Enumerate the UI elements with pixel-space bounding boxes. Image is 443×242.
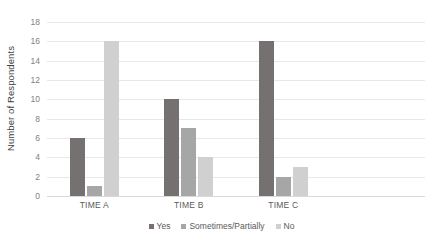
x-axis-category-label: TIME C	[268, 200, 298, 210]
bar	[198, 157, 213, 196]
legend-label: Sometimes/Partially	[189, 222, 264, 231]
bar	[259, 41, 274, 196]
y-axis-tick-label: 6	[35, 134, 40, 143]
legend-swatch-icon	[276, 224, 281, 229]
legend-item[interactable]: No	[276, 222, 295, 231]
bar	[293, 167, 308, 196]
bar	[70, 138, 85, 196]
y-axis-tick-label: 16	[31, 37, 40, 46]
bar-chart: Number of Respondents 024681012141618 TI…	[0, 0, 443, 242]
axis-baseline	[47, 196, 425, 197]
plot-area	[47, 22, 425, 196]
y-axis-tick-label: 0	[35, 192, 40, 201]
bar	[181, 128, 196, 196]
legend-label: Yes	[157, 222, 171, 231]
y-axis-title-text: Number of Respondents	[6, 45, 17, 150]
y-axis-tick-label: 14	[31, 56, 40, 65]
bar	[164, 99, 179, 196]
bar	[276, 177, 291, 196]
legend-item[interactable]: Sometimes/Partially	[181, 222, 264, 231]
y-axis-tick-label: 2	[35, 172, 40, 181]
bar	[104, 41, 119, 196]
y-axis-title: Number of Respondents	[4, 0, 18, 196]
x-axis-category-label: TIME B	[174, 200, 204, 210]
y-axis-tick-label: 4	[35, 153, 40, 162]
y-axis-tick-label: 12	[31, 76, 40, 85]
legend-swatch-icon	[181, 224, 186, 229]
x-axis-category-labels: TIME ATIME BTIME C	[47, 200, 425, 214]
legend-label: No	[284, 222, 295, 231]
y-axis-tick-label: 8	[35, 114, 40, 123]
bar	[87, 186, 102, 196]
y-axis-tick-label: 10	[31, 95, 40, 104]
y-axis-tick-label: 18	[31, 18, 40, 27]
legend-item[interactable]: Yes	[149, 222, 171, 231]
chart-legend: YesSometimes/PartiallyNo	[0, 222, 443, 231]
legend-swatch-icon	[149, 224, 154, 229]
x-axis-category-label: TIME A	[80, 200, 109, 210]
bars-layer	[47, 22, 425, 196]
y-axis-tick-labels: 024681012141618	[18, 0, 44, 242]
